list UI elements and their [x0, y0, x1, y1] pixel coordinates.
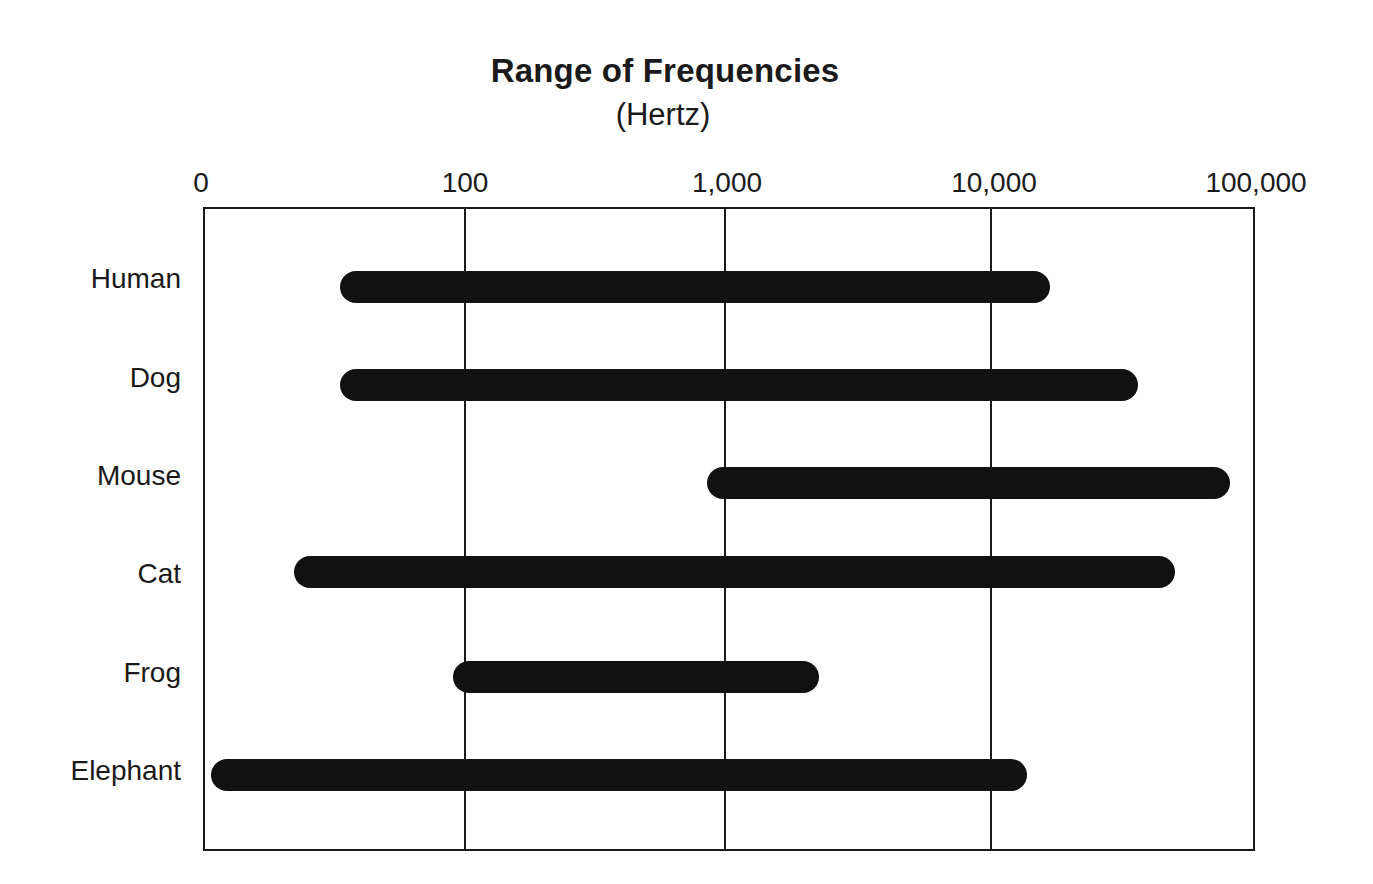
row-label-frog: Frog	[123, 657, 181, 689]
gridline-10000	[990, 209, 992, 849]
gridline-1000	[724, 209, 726, 849]
bar-mouse	[707, 467, 1230, 499]
x-tick-label-0: 0	[193, 167, 209, 199]
x-tick-label-10000: 10,000	[951, 167, 1037, 199]
x-tick-label-100: 100	[442, 167, 489, 199]
bar-cat	[294, 556, 1175, 588]
bar-frog	[453, 661, 819, 693]
row-label-cat: Cat	[137, 558, 181, 590]
row-label-mouse: Mouse	[97, 460, 181, 492]
bar-human	[340, 271, 1050, 303]
bar-dog	[340, 369, 1138, 401]
plot-area	[203, 207, 1255, 851]
gridline-100	[464, 209, 466, 849]
chart-title: Range of Frequencies	[0, 52, 1330, 90]
bar-elephant	[211, 759, 1027, 791]
row-label-elephant: Elephant	[70, 755, 181, 787]
x-tick-label-1000: 1,000	[692, 167, 762, 199]
row-label-dog: Dog	[130, 362, 181, 394]
x-tick-label-100000: 100,000	[1205, 167, 1306, 199]
row-label-human: Human	[91, 263, 181, 295]
chart-subtitle: (Hertz)	[0, 97, 1326, 133]
